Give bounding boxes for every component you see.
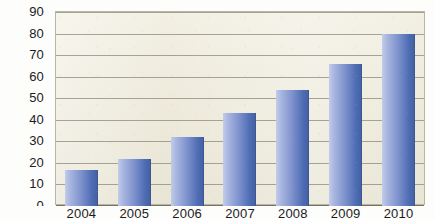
bar-chart: 0102030405060708090 20042005200620072008… bbox=[0, 0, 435, 219]
gridline-90 bbox=[56, 12, 424, 13]
gridline-80 bbox=[56, 34, 424, 35]
x-axis: 2004200520062007200820092010 bbox=[0, 206, 435, 219]
y-axis-tick-label: 20 bbox=[0, 155, 44, 168]
y-axis-tick-label: 90 bbox=[0, 5, 44, 18]
gridline-60 bbox=[56, 77, 424, 78]
x-axis-tick-label: 2010 bbox=[364, 207, 434, 219]
y-axis-tick-label: 70 bbox=[0, 48, 44, 61]
gridline-70 bbox=[56, 55, 424, 56]
bar bbox=[223, 113, 256, 218]
y-axis-tick-label: 30 bbox=[0, 134, 44, 147]
bar bbox=[382, 34, 415, 218]
y-axis-tick-label: 60 bbox=[0, 69, 44, 82]
y-axis-tick-label: 10 bbox=[0, 177, 44, 190]
y-axis-tick-label: 50 bbox=[0, 91, 44, 104]
plot-area bbox=[55, 11, 425, 205]
bar bbox=[329, 64, 362, 218]
y-axis-tick-label: 80 bbox=[0, 26, 44, 39]
y-axis-tick-label: 40 bbox=[0, 112, 44, 125]
bar bbox=[276, 90, 309, 218]
gridline-50 bbox=[56, 98, 424, 99]
